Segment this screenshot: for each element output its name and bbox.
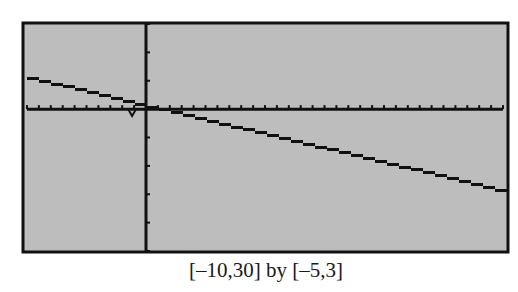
graph-screen — [0, 0, 518, 292]
plot-background — [23, 23, 508, 252]
window-caption: [–10,30] by [–5,3] — [0, 258, 518, 283]
